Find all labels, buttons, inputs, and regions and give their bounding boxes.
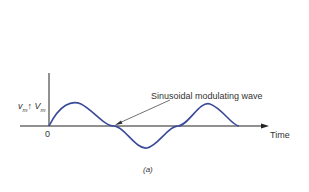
annotation-leader-line [117, 100, 170, 124]
origin-label: 0 [45, 129, 50, 139]
annotation-label: Sinusoidal modulating wave [151, 91, 263, 101]
y-axis-label: vm↑ Vm [18, 101, 46, 113]
x-axis-label: Time [270, 130, 290, 140]
figure: vm↑ Vm 0 Sinusoidal modulating wave Time… [0, 0, 309, 192]
leader-arrow-icon [115, 121, 123, 126]
x-axis-arrow-icon [261, 124, 269, 129]
caption: (a) [143, 165, 153, 174]
sine-wave [49, 103, 239, 148]
